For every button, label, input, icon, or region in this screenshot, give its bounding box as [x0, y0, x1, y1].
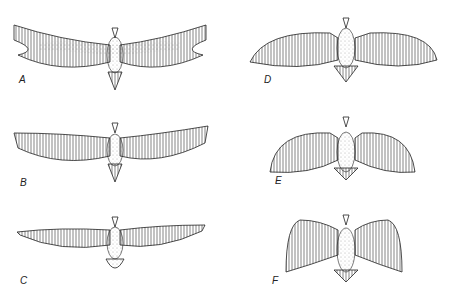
label-c: C — [20, 275, 27, 286]
bird-b — [14, 123, 208, 182]
bird-e — [270, 117, 415, 180]
label-b: B — [20, 177, 27, 188]
label-e: E — [275, 175, 282, 186]
bird-f — [286, 215, 402, 282]
bird-a — [14, 25, 206, 90]
label-d: D — [264, 74, 271, 85]
label-a: A — [19, 74, 26, 85]
bird-wing-figure — [0, 0, 450, 295]
label-f: F — [272, 275, 278, 286]
bird-d — [250, 18, 437, 82]
bird-c — [17, 217, 205, 268]
